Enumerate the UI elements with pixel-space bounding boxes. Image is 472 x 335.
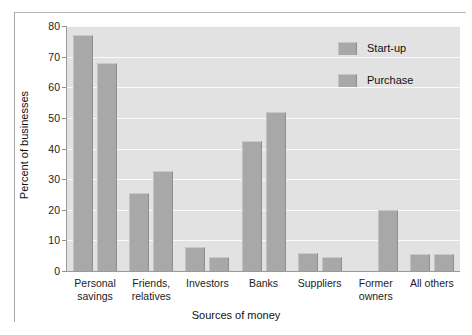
y-tick-mark [62,271,66,272]
bar-group [185,26,229,271]
bar-start-up [185,247,205,272]
bar-purchase [97,63,117,271]
x-axis-line [66,271,460,272]
chart-legend: Start-upPurchase [338,38,448,102]
y-axis-tick-labels: 01020304050607080 [28,0,60,335]
x-category-label: All others [404,277,460,290]
bar-group [73,26,117,271]
y-tick-label: 10 [48,235,60,246]
legend-label: Purchase [367,74,413,86]
chart-figure: 01020304050607080 Personal savingsFriend… [0,0,472,335]
bar-group [298,26,342,271]
y-tick-mark [62,118,66,119]
y-tick-label: 40 [48,144,60,155]
y-tick-mark [62,26,66,27]
bar-start-up [129,193,149,271]
y-tick-mark [62,210,66,211]
bar-purchase [153,171,173,271]
y-tick-label: 50 [48,113,60,124]
bar-start-up [242,141,262,271]
y-tick-label: 30 [48,174,60,185]
legend-item: Start-up [338,38,448,58]
y-tick-mark [62,179,66,180]
x-category-label: Investors [179,277,235,290]
bar-group [129,26,173,271]
y-tick-mark [62,57,66,58]
x-category-label: Banks [235,277,291,290]
bar-purchase [434,254,454,271]
bar-start-up [298,253,318,271]
x-axis-title: Sources of money [0,309,472,321]
x-category-label: Personal savings [67,277,123,302]
y-tick-mark [62,149,66,150]
legend-swatch-icon [338,42,357,55]
legend-label: Start-up [367,42,406,54]
bar-start-up [73,35,93,271]
bar-group [242,26,286,271]
y-axis-title: Percent of businesses [18,45,30,245]
legend-item: Purchase [338,70,448,90]
y-tick-label: 80 [48,21,60,32]
y-tick-label: 60 [48,82,60,93]
figure-frame-top-border [14,12,466,13]
x-category-label: Friends, relatives [123,277,179,302]
bar-purchase [378,210,398,271]
y-tick-mark [62,87,66,88]
bar-purchase [209,257,229,271]
x-category-label: Former owners [348,277,404,302]
legend-swatch-icon [338,74,357,87]
bar-purchase [266,112,286,271]
bar-start-up [410,254,430,271]
y-tick-label: 20 [48,205,60,216]
y-tick-label: 0 [54,266,60,277]
y-axis-line [66,26,67,272]
bar-purchase [322,257,342,271]
figure-frame-left-border [14,12,15,322]
y-tick-label: 70 [48,52,60,63]
x-category-label: Suppliers [292,277,348,290]
y-tick-mark [62,240,66,241]
